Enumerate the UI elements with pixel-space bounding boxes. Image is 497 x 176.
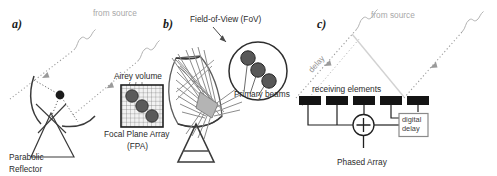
panel-a-caption-line1: Parabolic xyxy=(9,152,44,162)
delay-label: delay xyxy=(307,53,327,74)
airey-volume-label: Airey volume xyxy=(114,71,162,81)
panel-c: c) from source delay receiving elements xyxy=(296,10,484,168)
focal-plane-array-label: Focal Plane Array xyxy=(104,129,170,139)
panel-c-caption: Phased Array xyxy=(337,157,388,167)
digital-delay-box: digital delay xyxy=(399,114,428,137)
panel-b-label: b) xyxy=(163,17,173,31)
fpa-acronym-label: (FPA) xyxy=(127,141,148,151)
digital-delay-line2: delay xyxy=(402,124,420,133)
focus-rays xyxy=(34,80,78,122)
panel-a-caption-line2: Reflector xyxy=(9,164,42,174)
receiving-element xyxy=(407,96,429,105)
reflector-arc-upper xyxy=(31,76,41,124)
panel-a-label: a) xyxy=(12,17,22,31)
receiving-element xyxy=(380,96,402,105)
focal-plane-array xyxy=(121,85,163,127)
panel-a: a) from source Airey volum xyxy=(9,8,170,174)
receiving-element xyxy=(326,96,348,105)
panel-c-from-source-label: from source xyxy=(371,10,415,20)
panel-c-label: c) xyxy=(317,17,326,31)
summer-junction xyxy=(353,115,374,149)
panel-b-tripod xyxy=(178,124,214,162)
digital-delay-line1: digital xyxy=(402,115,422,124)
figure-canvas: a) from source Airey volum xyxy=(0,0,497,176)
incoming-ray-c2 xyxy=(404,12,484,99)
receiving-element xyxy=(353,96,375,105)
field-of-view-label: Field-of-View (FoV) xyxy=(190,14,262,24)
receiving-elements-label: receiving elements xyxy=(312,84,381,94)
reflector-arc-lower xyxy=(62,116,95,127)
panel-b: b) Field-of-View (FoV) xyxy=(163,14,290,162)
primary-beams-label: Primary beams xyxy=(234,89,290,99)
focal-point-dot xyxy=(56,91,65,100)
incoming-ray-a1 xyxy=(10,30,96,100)
receiving-elements-row xyxy=(299,96,429,105)
receiving-element xyxy=(299,96,321,105)
panel-a-from-source-label: from source xyxy=(93,8,137,18)
figure-svg: a) from source Airey volum xyxy=(0,0,497,176)
